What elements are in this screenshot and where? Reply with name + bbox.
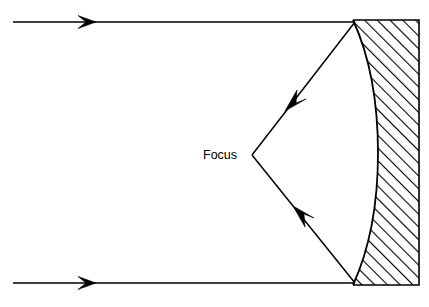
optics-ray-diagram: Focus (0, 0, 429, 307)
top-incoming-ray (13, 16, 355, 29)
bottom-incoming-ray (13, 277, 355, 290)
top-reflected-ray-line (252, 22, 355, 155)
top-reflected-ray (252, 22, 355, 155)
parabolic-mirror (353, 20, 419, 285)
bottom-reflected-arrow-icon (293, 206, 314, 227)
diagram-canvas: Focus (0, 0, 429, 307)
focus-label: Focus (203, 148, 237, 162)
mirror-hatch-fill (353, 20, 419, 285)
top-reflected-arrow-icon (285, 90, 306, 111)
bottom-reflected-ray (252, 155, 355, 283)
incoming-rays-group (13, 16, 355, 290)
reflected-rays-group (252, 22, 355, 283)
